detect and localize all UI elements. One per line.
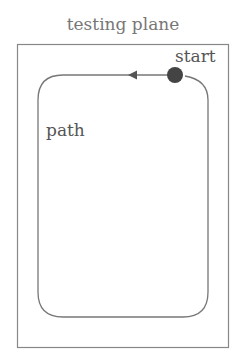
start-point-marker <box>167 67 183 83</box>
closed-path-loop <box>38 75 208 317</box>
path-label: path <box>46 120 85 140</box>
testing-plane-boundary <box>18 45 229 348</box>
direction-arrow-icon <box>128 71 137 80</box>
start-label: start <box>175 46 216 66</box>
